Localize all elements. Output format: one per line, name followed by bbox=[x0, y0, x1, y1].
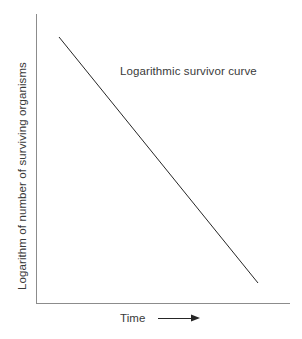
x-axis-label: Time bbox=[120, 312, 146, 324]
y-axis-label: Logarithm of number of surviving organis… bbox=[16, 62, 28, 290]
chart-title: Logarithmic survivor curve bbox=[120, 65, 257, 77]
x-axis-arrow-head bbox=[191, 314, 200, 321]
figure-container: Logarithmic survivor curve Logarithm of … bbox=[0, 0, 302, 339]
survivor-curve-chart: Logarithmic survivor curve Logarithm of … bbox=[0, 0, 302, 339]
